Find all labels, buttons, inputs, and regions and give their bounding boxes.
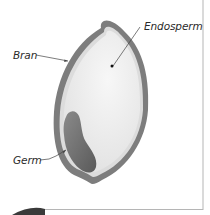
label-bran: Bran [13,50,37,61]
diagram-figure: Endosperm Bran Germ [0,0,210,215]
wheat-kernel-diagram [0,0,210,215]
bottom-dark-shape [12,208,45,215]
label-germ: Germ [13,155,42,166]
endosperm-pointer-dot [111,65,114,68]
bran-leader-line [36,55,68,61]
label-endosperm: Endosperm [144,21,203,32]
